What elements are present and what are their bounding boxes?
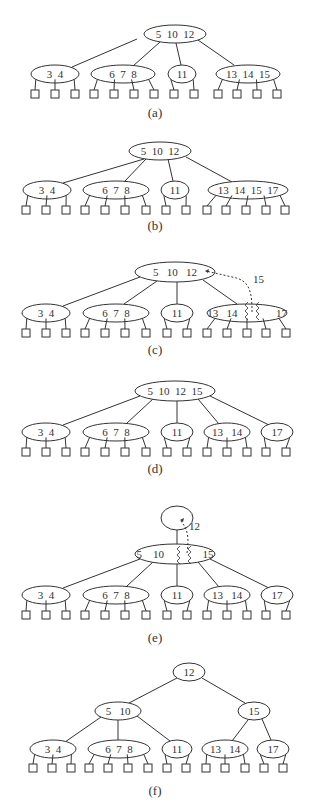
node-keys: 5 10 12	[156, 28, 195, 40]
leaf-edge	[74, 79, 75, 90]
leaf-square-icon	[190, 90, 198, 98]
leaf-edge	[245, 437, 247, 448]
leaf-edge	[26, 600, 27, 611]
leaf-edge	[206, 754, 207, 764]
leaf-square-icon	[183, 611, 191, 619]
node-keys: 3 4	[38, 426, 55, 438]
node-keys: 3 4	[38, 589, 55, 601]
leaf-edge	[85, 600, 90, 611]
node-keys: 6 7 8	[109, 68, 137, 80]
leaf-square-icon	[163, 329, 171, 337]
leaf-square-icon	[242, 206, 250, 214]
node-keys: 11	[172, 426, 183, 438]
leaf-edge	[218, 79, 222, 90]
leaf-edge	[89, 754, 94, 764]
leaf-square-icon	[281, 206, 289, 214]
leaf-square-icon	[262, 206, 270, 214]
node-keys: 3 4	[38, 307, 55, 319]
panel-b: 5 10 123 46 7 81113 14 15 17(b)	[22, 142, 289, 233]
tree-edge	[203, 280, 237, 304]
tree-node: 13 14 15	[216, 65, 280, 83]
leaf-square-icon	[81, 206, 89, 214]
tree-edge	[262, 719, 271, 740]
leaf-square-icon	[142, 448, 150, 456]
panel-f: 125 10153 46 7 81113 1417(f)	[29, 663, 289, 798]
leaf-edge	[26, 195, 28, 206]
tree-node: 5 10	[95, 702, 141, 720]
node-keys: 17	[272, 426, 284, 438]
tree-node: 11	[162, 740, 192, 758]
tree-node: 15	[238, 702, 270, 720]
tree-edge	[168, 159, 173, 181]
node-keys: 5 10 15	[137, 548, 215, 560]
node-keys: 11	[172, 743, 183, 755]
leaf-edge	[85, 195, 90, 206]
leaf-square-icon	[183, 448, 191, 456]
leaf-square-icon	[42, 206, 50, 214]
leaf-edge	[207, 195, 216, 206]
leaf-square-icon	[121, 611, 129, 619]
leaf-square-icon	[42, 448, 50, 456]
tree-node: 6 7 8	[83, 423, 149, 441]
leaf-square-icon	[150, 90, 158, 98]
tree-edge	[127, 562, 153, 586]
leaf-square-icon	[90, 90, 98, 98]
leaf-square-icon	[243, 448, 251, 456]
tree-edge	[65, 717, 101, 742]
node-keys: 5 10 12 15	[148, 385, 204, 397]
leaf-square-icon	[42, 611, 50, 619]
leaf-edge	[142, 195, 146, 206]
leaf-edge	[26, 318, 27, 329]
leaf-edge	[280, 195, 285, 206]
leaf-square-icon	[121, 206, 129, 214]
leaf-edge	[207, 437, 209, 448]
leaf-square-icon	[101, 206, 109, 214]
leaf-edge	[245, 600, 247, 611]
leaf-square-icon	[262, 329, 270, 337]
leaf-square-icon	[81, 448, 89, 456]
leaf-square-icon	[42, 329, 50, 337]
leaf-square-icon	[223, 448, 231, 456]
leaf-square-icon	[223, 329, 231, 337]
node-keys: 3 4	[39, 184, 56, 196]
tree-node: 17	[257, 740, 289, 758]
leaf-square-icon	[71, 90, 79, 98]
leaf-square-icon	[81, 329, 89, 337]
b-tree-insertion-diagram: 5 10 123 46 7 81113 14 15(a)5 10 123 46 …	[0, 0, 310, 810]
leaf-square-icon	[183, 329, 191, 337]
leaf-edge	[65, 437, 66, 448]
panel-a: 5 10 123 46 7 81113 14 15(a)	[31, 25, 281, 120]
leaf-square-icon	[22, 206, 30, 214]
leaf-square-icon	[243, 611, 251, 619]
leaf-square-icon	[22, 329, 30, 337]
leaf-square-icon	[130, 90, 138, 98]
tree-node: 5 10 15	[135, 544, 215, 564]
tree-edge	[63, 396, 140, 425]
leaf-square-icon	[222, 206, 230, 214]
leaf-square-icon	[110, 90, 118, 98]
leaf-square-icon	[253, 90, 261, 98]
tree-edge	[129, 678, 177, 703]
tree-edge	[63, 159, 144, 183]
leaf-edge	[26, 437, 27, 448]
tree-edge	[198, 399, 219, 424]
tree-edge	[124, 281, 157, 304]
leaf-square-icon	[29, 764, 37, 772]
leaf-edge	[264, 600, 266, 611]
panel-d: 5 10 12 153 46 7 81113 1417(d)	[22, 381, 293, 476]
tree-node: 6 7 8	[83, 586, 149, 604]
leaf-square-icon	[182, 764, 190, 772]
leaf-square-icon	[273, 90, 281, 98]
leaf-square-icon	[144, 764, 152, 772]
leaf-square-icon	[241, 764, 249, 772]
leaf-square-icon	[101, 329, 109, 337]
leaf-square-icon	[282, 329, 290, 337]
leaf-square-icon	[203, 611, 211, 619]
tree-node: 11	[161, 304, 193, 322]
node-keys: 11	[172, 589, 183, 601]
leaf-square-icon	[62, 448, 70, 456]
leaf-square-icon	[81, 611, 89, 619]
leaf-square-icon	[142, 611, 150, 619]
leaf-edge	[65, 600, 66, 611]
tree-node: 17	[261, 423, 293, 441]
